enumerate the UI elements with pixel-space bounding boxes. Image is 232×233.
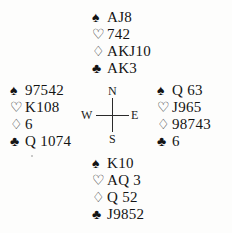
club-icon: ♣: [10, 133, 25, 150]
hand-east-spades-row: ♠ Q 63: [157, 82, 211, 99]
hand-north-hearts: 742: [107, 26, 130, 43]
hand-north-hearts-row: ♡ 742: [92, 26, 151, 43]
hand-north-diamonds-row: ♢ AKJ10: [92, 43, 151, 60]
hand-east-hearts: J965: [172, 99, 202, 116]
compass-rose: N S W E: [89, 86, 137, 146]
compass-label-east: E: [131, 109, 138, 121]
hand-west-spades-row: ♠ 97542: [10, 82, 71, 99]
heart-icon: ♡: [10, 99, 25, 116]
hand-south-spades-row: ♠ K10: [92, 155, 144, 172]
diamond-icon: ♢: [10, 116, 25, 133]
bridge-hand-diagram: ♠ AJ8 ♡ 742 ♢ AKJ10 ♣ AK3 ♠ 97542 ♡ K108…: [0, 0, 232, 233]
hand-south-hearts-row: ♡ AQ 3: [92, 172, 144, 189]
compass-label-west: W: [81, 109, 92, 121]
spade-icon: ♠: [10, 82, 25, 99]
hand-east-diamonds-row: ♢ 98743: [157, 116, 211, 133]
hand-north-spades-row: ♠ AJ8: [92, 9, 151, 26]
hand-south: ♠ K10 ♡ AQ 3 ♢ Q 52 ♣ J9852: [92, 155, 144, 223]
hand-south-clubs: J9852: [107, 206, 144, 223]
club-icon: ♣: [92, 60, 107, 77]
compass-horizontal-line: [96, 115, 129, 116]
hand-north-diamonds: AKJ10: [107, 43, 151, 60]
heart-icon: ♡: [92, 26, 107, 43]
compass-label-north: N: [108, 85, 117, 97]
hand-east-hearts-row: ♡ J965: [157, 99, 211, 116]
spade-icon: ♠: [157, 82, 172, 99]
hand-west: ♠ 97542 ♡ K108 ♢ 6 ♣ Q 1074: [10, 82, 71, 150]
diamond-icon: ♢: [92, 189, 107, 206]
hand-south-hearts: AQ 3: [107, 172, 141, 189]
diamond-icon: ♢: [92, 43, 107, 60]
diamond-icon: ♢: [157, 116, 172, 133]
hand-south-diamonds: Q 52: [107, 189, 138, 206]
hand-west-hearts: K108: [25, 99, 60, 116]
club-icon: ♣: [157, 133, 172, 150]
hand-west-clubs-row: ♣ Q 1074: [10, 133, 71, 150]
hand-north-clubs: AK3: [107, 60, 137, 77]
page-speck-artifact: [31, 155, 33, 157]
hand-west-diamonds: 6: [25, 116, 33, 133]
compass-label-south: S: [109, 133, 116, 145]
spade-icon: ♠: [92, 155, 107, 172]
hand-north-clubs-row: ♣ AK3: [92, 60, 151, 77]
spade-icon: ♠: [92, 9, 107, 26]
hand-north-spades: AJ8: [107, 9, 132, 26]
hand-east: ♠ Q 63 ♡ J965 ♢ 98743 ♣ 6: [157, 82, 211, 150]
hand-east-diamonds: 98743: [172, 116, 211, 133]
heart-icon: ♡: [92, 172, 107, 189]
hand-north: ♠ AJ8 ♡ 742 ♢ AKJ10 ♣ AK3: [92, 9, 151, 77]
hand-south-spades: K10: [107, 155, 134, 172]
hand-east-spades: Q 63: [172, 82, 203, 99]
hand-west-spades: 97542: [25, 82, 64, 99]
hand-south-diamonds-row: ♢ Q 52: [92, 189, 144, 206]
heart-icon: ♡: [157, 99, 172, 116]
hand-west-clubs: Q 1074: [25, 133, 71, 150]
hand-east-clubs: 6: [172, 133, 180, 150]
club-icon: ♣: [92, 206, 107, 223]
hand-south-clubs-row: ♣ J9852: [92, 206, 144, 223]
hand-east-clubs-row: ♣ 6: [157, 133, 211, 150]
hand-west-diamonds-row: ♢ 6: [10, 116, 71, 133]
hand-west-hearts-row: ♡ K108: [10, 99, 71, 116]
